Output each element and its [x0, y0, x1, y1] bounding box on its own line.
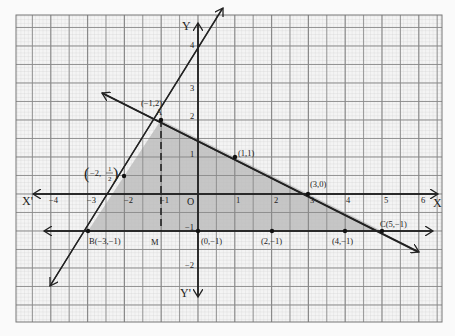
label-1-1: (1,1): [238, 148, 254, 158]
svg-text:−3: −3: [87, 195, 96, 205]
svg-text:2: 2: [274, 195, 278, 205]
svg-text:−2,: −2,: [90, 168, 101, 178]
svg-text:5: 5: [384, 195, 388, 205]
svg-text:3: 3: [190, 83, 194, 93]
svg-text:2: 2: [108, 175, 112, 183]
point-c: [380, 229, 384, 233]
point-2-m1: [270, 229, 274, 233]
x-neg-axis-label: X': [22, 194, 33, 208]
point-m2-half: [122, 174, 126, 178]
point-b: [86, 229, 90, 233]
svg-text:−2: −2: [185, 260, 194, 270]
label-a: A: [156, 107, 163, 117]
y-neg-axis-label: Y': [180, 286, 191, 300]
point-0-m1: [196, 229, 200, 233]
svg-text:−4: −4: [49, 195, 59, 205]
svg-text:1: 1: [236, 195, 240, 205]
svg-text:−1: −1: [160, 195, 169, 205]
label-2-m1: (2,−1): [261, 236, 282, 246]
label-4-m1: (4,−1): [332, 236, 353, 246]
svg-text:6: 6: [421, 195, 425, 205]
point-a: [159, 118, 163, 122]
origin-label: O: [187, 196, 194, 207]
svg-text:1: 1: [108, 165, 112, 173]
x-axis-label: X: [433, 196, 442, 210]
label-0-m1: (0,−1): [201, 236, 222, 246]
graph-paper-chart: Y Y' X X' O −4 −3 −2 −1 1 2 3 4 5 6 4 3 …: [0, 0, 455, 336]
svg-text:(: (: [84, 165, 89, 183]
label-3-0: (3,0): [310, 179, 326, 189]
svg-text:): ): [113, 165, 118, 183]
svg-text:−2: −2: [124, 195, 133, 205]
svg-text:−1: −1: [185, 222, 194, 232]
point-4-m1: [343, 229, 347, 233]
svg-text:2: 2: [190, 111, 194, 121]
svg-text:1: 1: [190, 149, 194, 159]
label-b: B(−3,−1): [89, 236, 121, 246]
label-m: M: [151, 237, 159, 247]
y-axis-label: Y: [182, 19, 191, 33]
label-c: C(5,−1): [380, 219, 407, 229]
point-1-1: [233, 155, 237, 159]
svg-text:3: 3: [310, 195, 314, 205]
